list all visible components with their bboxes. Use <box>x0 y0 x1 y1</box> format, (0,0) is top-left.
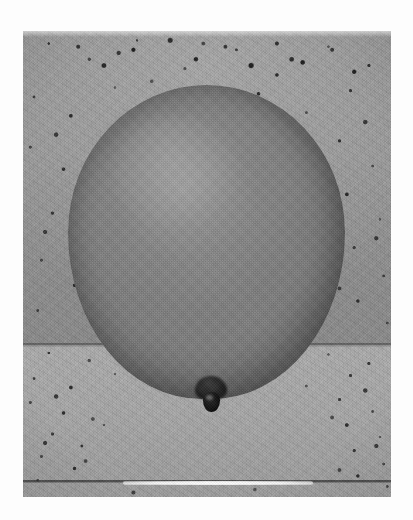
page-title: Balloon Photograph <box>0 0 1 1</box>
photo-alt-text: Grayscale photograph of a large inflated… <box>0 0 1 1</box>
balloon <box>68 85 345 399</box>
page-canvas: Grayscale photograph of a large inflated… <box>0 0 413 520</box>
balloon-knot-highlight <box>206 395 213 400</box>
balloon-photograph <box>23 31 391 497</box>
balloon-surface-grain <box>68 85 345 399</box>
balloon-knot <box>193 376 229 416</box>
specular-streak <box>123 481 313 485</box>
